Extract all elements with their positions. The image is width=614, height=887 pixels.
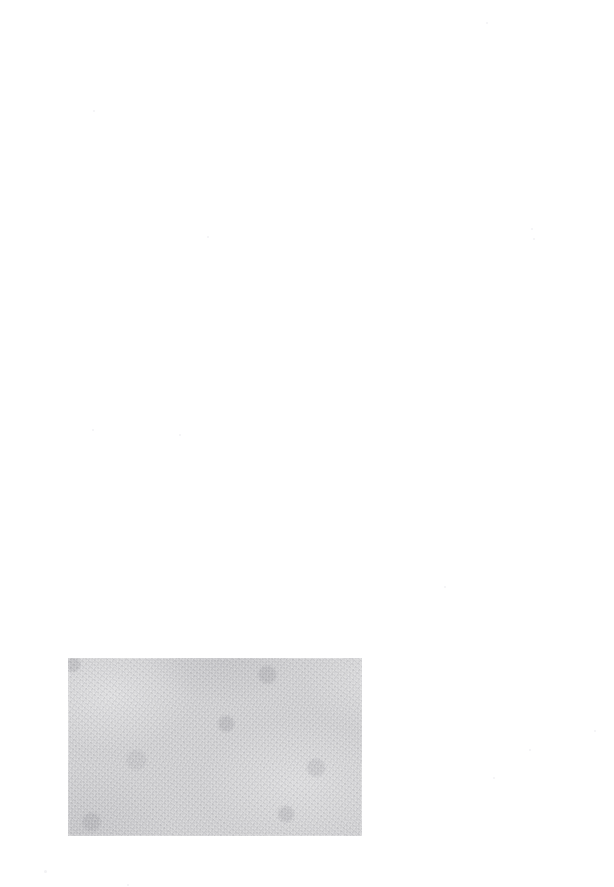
scan-speck xyxy=(127,884,129,886)
scan-speck xyxy=(533,238,535,240)
scan-speck xyxy=(594,730,596,732)
scanned-page xyxy=(0,0,614,887)
scan-speck xyxy=(444,586,446,588)
scan-speck xyxy=(486,22,488,24)
scan-speck xyxy=(92,429,94,431)
image-block-halftone-texture xyxy=(68,658,362,836)
scan-speck xyxy=(531,228,533,230)
scan-speck xyxy=(179,434,181,436)
scan-speck xyxy=(529,749,531,751)
scan-speck xyxy=(44,870,47,873)
scan-speck xyxy=(493,777,495,779)
scan-speck xyxy=(207,236,209,238)
scan-speck xyxy=(93,110,95,112)
image-block xyxy=(68,658,362,836)
